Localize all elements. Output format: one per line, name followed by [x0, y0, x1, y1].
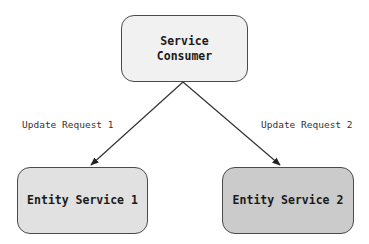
- node-entity-service-2: Entity Service 2: [222, 167, 354, 234]
- node-label: Entity Service 2: [233, 193, 344, 208]
- node-label: Entity Service 1: [27, 193, 138, 208]
- node-label: Service Consumer: [157, 34, 212, 64]
- node-service-consumer: Service Consumer: [121, 15, 248, 82]
- edge-label-update-request-1: Update Request 1: [22, 119, 114, 130]
- edge-label-update-request-2: Update Request 2: [261, 119, 353, 130]
- node-entity-service-1: Entity Service 1: [17, 167, 148, 234]
